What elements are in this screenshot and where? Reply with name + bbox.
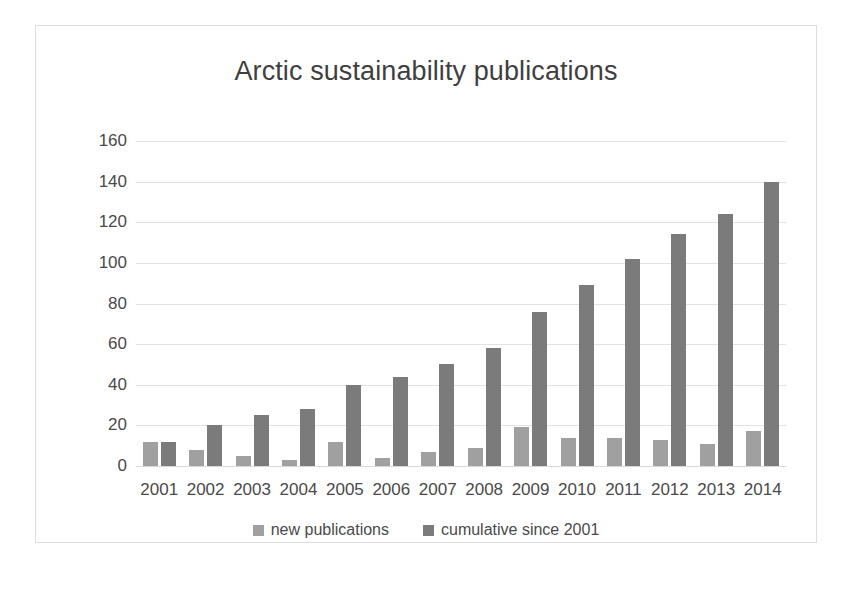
bar-group: 2011	[600, 141, 646, 466]
y-axis-tick-label: 120	[99, 212, 127, 232]
x-axis-tick-label: 2002	[187, 480, 225, 500]
bar[interactable]	[393, 377, 408, 466]
bar[interactable]	[514, 427, 529, 466]
bar-group: 2008	[461, 141, 507, 466]
bar[interactable]	[346, 385, 361, 466]
bar-group: 2014	[739, 141, 785, 466]
bar-group: 2004	[275, 141, 321, 466]
bar-group: 2003	[229, 141, 275, 466]
bar[interactable]	[671, 234, 686, 466]
y-axis-tick-label: 160	[99, 131, 127, 151]
bar-group: 2012	[647, 141, 693, 466]
y-axis-tick-label: 0	[118, 456, 127, 476]
x-axis-tick-label: 2001	[140, 480, 178, 500]
bar[interactable]	[439, 364, 454, 466]
x-axis-tick-label: 2011	[605, 480, 642, 500]
bar[interactable]	[282, 460, 297, 466]
x-axis-tick-label: 2005	[326, 480, 364, 500]
bar-series-group: 2001200220032004200520062007200820092010…	[136, 141, 786, 466]
y-axis-tick-label: 140	[99, 172, 127, 192]
x-axis-tick-label: 2010	[558, 480, 596, 500]
bar[interactable]	[653, 440, 668, 466]
x-axis-tick-label: 2007	[419, 480, 457, 500]
bar[interactable]	[746, 431, 761, 466]
bar[interactable]	[236, 456, 251, 466]
bar[interactable]	[532, 312, 547, 466]
gridline	[136, 466, 786, 467]
x-axis-tick-label: 2009	[512, 480, 550, 500]
x-axis-tick-label: 2008	[465, 480, 503, 500]
bar[interactable]	[486, 348, 501, 466]
legend-label: cumulative since 2001	[441, 521, 599, 539]
x-axis-tick-label: 2003	[233, 480, 271, 500]
bar[interactable]	[468, 448, 483, 466]
chart-title: Arctic sustainability publications	[36, 56, 816, 87]
bar[interactable]	[189, 450, 204, 466]
x-axis-tick-label: 2006	[372, 480, 410, 500]
bar[interactable]	[300, 409, 315, 466]
y-axis-tick-label: 60	[108, 334, 127, 354]
y-axis-tick-label: 20	[108, 415, 127, 435]
bar[interactable]	[625, 259, 640, 466]
bar-group: 2013	[693, 141, 739, 466]
bar[interactable]	[254, 415, 269, 466]
bar-group: 2002	[182, 141, 228, 466]
x-axis-tick-label: 2013	[697, 480, 735, 500]
legend-label: new publications	[271, 521, 389, 539]
bar-group: 2010	[554, 141, 600, 466]
bar[interactable]	[561, 438, 576, 466]
bar[interactable]	[607, 438, 622, 466]
y-axis-tick-label: 100	[99, 253, 127, 273]
plot-area: 160140120100806040200 200120022003200420…	[136, 141, 786, 466]
bar-group: 2007	[415, 141, 461, 466]
bar[interactable]	[328, 442, 343, 466]
bar[interactable]	[579, 285, 594, 466]
x-axis-tick-label: 2014	[744, 480, 782, 500]
bar[interactable]	[764, 182, 779, 466]
legend-swatch-icon	[253, 525, 264, 536]
legend-item-new-publications[interactable]: new publications	[253, 521, 389, 539]
x-axis-tick-label: 2004	[280, 480, 318, 500]
bar-group: 2006	[368, 141, 414, 466]
bar-group: 2005	[322, 141, 368, 466]
bar[interactable]	[161, 442, 176, 466]
chart-legend: new publications cumulative since 2001	[36, 521, 816, 539]
bar[interactable]	[421, 452, 436, 466]
legend-item-cumulative-since-2001[interactable]: cumulative since 2001	[423, 521, 599, 539]
y-axis-tick-label: 40	[108, 375, 127, 395]
bar[interactable]	[375, 458, 390, 466]
bar[interactable]	[143, 442, 158, 466]
chart-container: Arctic sustainability publications 16014…	[35, 25, 817, 543]
bar[interactable]	[718, 214, 733, 466]
legend-swatch-icon	[423, 525, 434, 536]
bar[interactable]	[700, 444, 715, 466]
bar-group: 2001	[136, 141, 182, 466]
y-axis-tick-label: 80	[108, 294, 127, 314]
bar-group: 2009	[507, 141, 553, 466]
x-axis-tick-label: 2012	[651, 480, 689, 500]
bar[interactable]	[207, 425, 222, 466]
